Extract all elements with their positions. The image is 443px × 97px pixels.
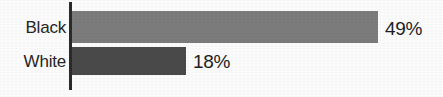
bar-row-white: White 18% xyxy=(0,46,443,97)
bar-row-black: Black 49% xyxy=(0,0,443,46)
category-axis-line xyxy=(69,2,72,90)
category-label-black: Black xyxy=(25,19,66,36)
bar-black xyxy=(71,11,378,43)
category-label-white: White xyxy=(24,53,66,70)
bar-white xyxy=(71,47,186,75)
bar-chart: Black 49% White 18% xyxy=(0,0,443,97)
value-label-black: 49% xyxy=(385,19,422,38)
value-label-white: 18% xyxy=(193,52,230,71)
